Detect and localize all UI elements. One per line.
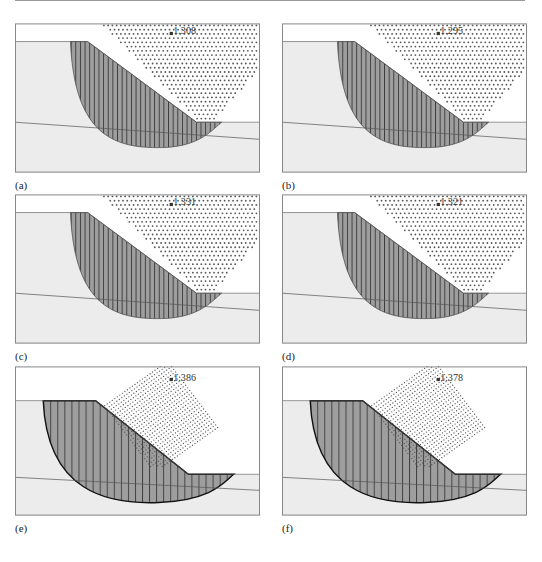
panel-c: 1.331 (c) (15, 194, 260, 362)
slope-stability-plot: 1.321 (282, 194, 527, 344)
factor-of-safety-label: 1.386 (173, 372, 196, 383)
top-rule (15, 0, 525, 1)
panel-e: 1.386 (e) (15, 366, 260, 534)
factor-of-safety-label: 1.321 (440, 196, 463, 207)
panel-caption: (d) (282, 350, 295, 362)
factor-of-safety-label: 1.331 (173, 196, 196, 207)
panel-f: 1.378 (f) (282, 366, 527, 534)
panel-a: 1.308 (a) (15, 23, 260, 191)
panel-caption: (c) (15, 350, 27, 362)
factor-of-safety-label: 1.308 (173, 25, 196, 36)
panel-caption: (e) (15, 522, 27, 534)
panel-caption: (a) (15, 179, 27, 191)
slope-stability-plot: 1.331 (15, 194, 260, 344)
slope-stability-plot: 1.378 (282, 366, 527, 516)
panel-caption: (b) (282, 179, 295, 191)
factor-of-safety-label: 1.295 (440, 25, 463, 36)
factor-of-safety-label: 1.378 (440, 372, 463, 383)
panel-d: 1.321 (d) (282, 194, 527, 362)
slope-stability-plot: 1.386 (15, 366, 260, 516)
panel-caption: (f) (282, 522, 293, 534)
slope-stability-plot: 1.295 (282, 23, 527, 173)
slope-stability-plot: 1.308 (15, 23, 260, 173)
panel-b: 1.295 (b) (282, 23, 527, 191)
